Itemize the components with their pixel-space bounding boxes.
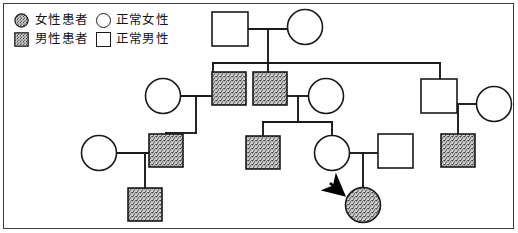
individual-II-1-female-unaffected <box>146 79 181 114</box>
individual-II-4-female-unaffected <box>309 79 344 114</box>
individual-III-4-female-unaffected <box>315 136 350 171</box>
legend-label-normal-male: 正常男性 <box>116 33 170 46</box>
filled-circle-icon <box>14 13 29 28</box>
individual-III-2-male-affected <box>149 134 183 167</box>
legend: 女性患者 正常女性 男性患者 正常男性 <box>14 11 194 49</box>
legend-label-normal-female: 正常女性 <box>116 14 170 27</box>
individual-II-5-male-unaffected <box>421 79 457 113</box>
individual-III-1-female-unaffected <box>82 136 117 171</box>
individual-IV-2-female-affected-proband <box>346 188 381 223</box>
pedigree-figure: 女性患者 正常女性 男性患者 正常男性 <box>0 0 518 233</box>
proband-arrow-icon <box>330 183 344 195</box>
filled-square-icon <box>14 32 29 47</box>
individual-II-6-female-unaffected <box>477 87 512 122</box>
individual-IV-1-male-affected <box>128 188 162 221</box>
individual-II-3-male-affected <box>253 72 287 105</box>
individual-III-5-male-unaffected <box>378 134 413 168</box>
open-square-icon <box>96 32 111 47</box>
legend-row-male: 男性患者 正常男性 <box>14 30 194 49</box>
legend-label-affected-female: 女性患者 <box>35 14 89 27</box>
individual-I-2-female-unaffected <box>288 10 323 45</box>
legend-row-female: 女性患者 正常女性 <box>14 11 194 30</box>
individual-III-6-male-affected <box>441 134 475 167</box>
open-circle-icon <box>96 13 111 28</box>
legend-label-affected-male: 男性患者 <box>35 33 89 46</box>
individual-I-1-male-unaffected <box>212 12 248 46</box>
individual-III-3-male-affected <box>246 136 280 169</box>
individual-II-2-male-affected <box>212 72 246 105</box>
